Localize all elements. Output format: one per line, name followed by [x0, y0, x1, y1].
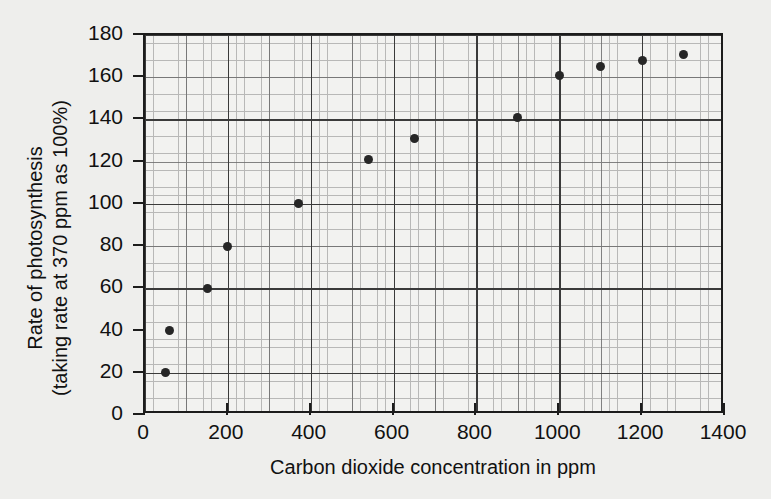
x-tick-label: 1400	[700, 420, 747, 444]
x-axis-tick-labels: 0200400600800100012001400	[0, 0, 771, 499]
y-axis-title-line1: Rate of photosynthesis	[23, 58, 48, 438]
chart-figure: 020406080100120140160180 020040060080010…	[0, 0, 771, 499]
x-tick-label: 400	[291, 420, 326, 444]
x-tick-label: 1000	[534, 420, 581, 444]
x-tick-label: 0	[137, 420, 149, 444]
x-tick-label: 800	[457, 420, 492, 444]
x-tick-label: 1200	[617, 420, 664, 444]
y-axis-title: Rate of photosynthesis (taking rate at 3…	[23, 58, 73, 438]
x-axis-title: Carbon dioxide concentration in ppm	[143, 456, 723, 479]
x-tick-label: 600	[374, 420, 409, 444]
x-tick-label: 200	[208, 420, 243, 444]
y-axis-title-line2: (taking rate at 370 ppm as 100%)	[48, 58, 73, 438]
